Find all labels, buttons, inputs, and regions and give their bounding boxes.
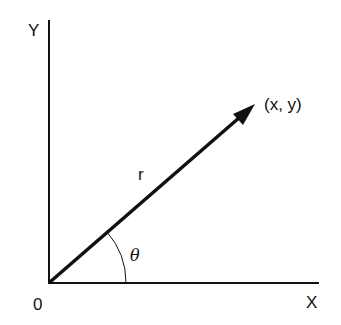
y-axis-label: Y bbox=[28, 22, 39, 39]
polar-diagram bbox=[0, 0, 341, 325]
angle-arc bbox=[107, 232, 126, 283]
angle-label: θ bbox=[130, 248, 140, 264]
radius-label: r bbox=[138, 166, 144, 183]
point-label: (x, y) bbox=[264, 96, 302, 113]
x-axis-label: X bbox=[306, 294, 317, 311]
origin-label: 0 bbox=[33, 296, 42, 313]
radius-vector bbox=[50, 117, 240, 282]
